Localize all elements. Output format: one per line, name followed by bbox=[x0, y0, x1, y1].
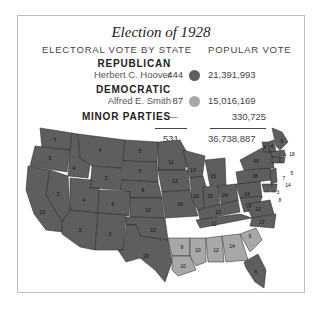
svg-text:9: 9 bbox=[181, 244, 184, 250]
svg-text:15: 15 bbox=[210, 173, 216, 179]
us-electoral-map: 7513 434 343 635 5810 102012 13189 10132… bbox=[0, 0, 319, 310]
svg-text:18: 18 bbox=[177, 201, 183, 207]
svg-text:10: 10 bbox=[180, 263, 186, 269]
svg-text:3: 3 bbox=[105, 175, 108, 181]
svg-text:12: 12 bbox=[211, 221, 217, 227]
svg-text:12: 12 bbox=[213, 247, 219, 253]
svg-text:17: 17 bbox=[259, 219, 265, 225]
svg-text:4: 4 bbox=[99, 147, 102, 153]
svg-text:3: 3 bbox=[109, 231, 112, 237]
svg-text:7: 7 bbox=[283, 175, 286, 181]
svg-text:7: 7 bbox=[54, 137, 57, 143]
svg-text:13: 13 bbox=[190, 167, 196, 173]
svg-text:20: 20 bbox=[143, 253, 149, 259]
svg-text:5: 5 bbox=[139, 148, 142, 154]
svg-text:6: 6 bbox=[112, 201, 115, 207]
svg-text:6: 6 bbox=[281, 138, 284, 144]
svg-text:10: 10 bbox=[150, 227, 156, 233]
svg-text:4: 4 bbox=[271, 143, 274, 149]
svg-text:45: 45 bbox=[253, 158, 259, 164]
svg-text:10: 10 bbox=[195, 247, 201, 253]
svg-text:18: 18 bbox=[289, 151, 295, 157]
svg-text:13: 13 bbox=[215, 209, 221, 215]
svg-text:24: 24 bbox=[222, 192, 228, 198]
svg-text:13: 13 bbox=[172, 178, 178, 184]
svg-text:3: 3 bbox=[79, 227, 82, 233]
svg-text:3: 3 bbox=[277, 189, 280, 195]
svg-text:5: 5 bbox=[139, 168, 142, 174]
svg-text:3: 3 bbox=[57, 191, 60, 197]
svg-text:14: 14 bbox=[285, 182, 291, 188]
svg-text:4: 4 bbox=[83, 197, 86, 203]
svg-text:24: 24 bbox=[244, 191, 250, 197]
svg-text:8: 8 bbox=[279, 197, 282, 203]
svg-text:14: 14 bbox=[229, 243, 235, 249]
svg-text:4: 4 bbox=[264, 144, 267, 150]
svg-text:5: 5 bbox=[291, 170, 294, 176]
svg-text:38: 38 bbox=[252, 173, 258, 179]
svg-text:29: 29 bbox=[193, 193, 199, 199]
svg-text:4: 4 bbox=[73, 165, 76, 171]
svg-text:12: 12 bbox=[255, 206, 261, 212]
svg-text:12: 12 bbox=[168, 159, 174, 165]
svg-text:13: 13 bbox=[39, 209, 45, 215]
svg-text:8: 8 bbox=[142, 187, 145, 193]
svg-text:8: 8 bbox=[249, 203, 252, 209]
svg-text:10: 10 bbox=[145, 207, 151, 213]
svg-text:15: 15 bbox=[207, 193, 213, 199]
svg-text:6: 6 bbox=[255, 269, 258, 275]
svg-text:5: 5 bbox=[49, 155, 52, 161]
svg-text:9: 9 bbox=[249, 233, 252, 239]
